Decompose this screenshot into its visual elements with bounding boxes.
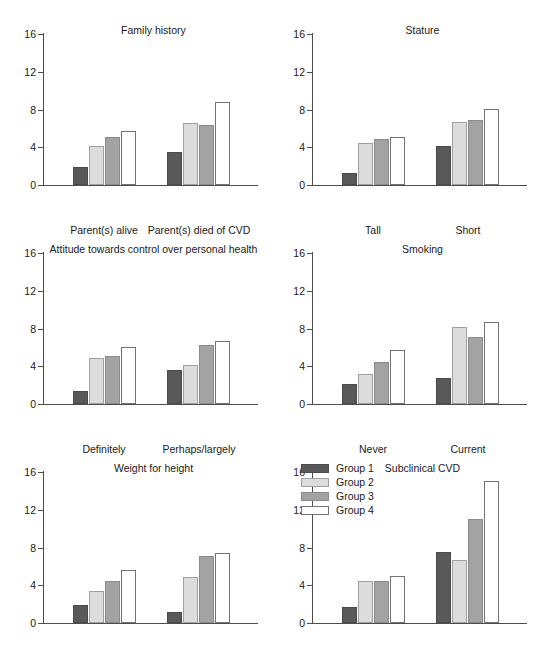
bar [215,341,230,404]
bar [89,591,104,623]
y-axis-tick [307,34,312,35]
y-axis-tick-label: 12 [269,505,305,515]
y-axis-tick-label: 4 [269,142,305,152]
y-axis-tick-label: 4 [269,361,305,371]
chart-panel: Weight for height0481216<24>27 [0,438,269,657]
bar [167,152,182,185]
y-axis-tick [38,366,43,367]
y-axis-tick-label: 4 [269,580,305,590]
x-axis-line [312,623,527,624]
legend-swatch-icon [301,478,329,487]
plot-area: NeverCurrent [313,253,527,404]
legend-swatch-icon [301,464,329,473]
plot-area: <24>27 [44,472,258,623]
bar [105,137,120,185]
bar [167,370,182,404]
y-axis-tick-label: 8 [0,324,36,334]
bar [199,556,214,623]
plot-area: TallShort [313,34,527,185]
bar [121,131,136,185]
y-axis-tick-label: 16 [0,29,36,39]
bar [89,146,104,185]
y-axis-tick-label: 16 [269,248,305,258]
bar [342,607,357,623]
y-axis-tick [38,253,43,254]
legend-item[interactable]: Group 1 [301,462,374,475]
bar [73,391,88,404]
bar [436,552,451,623]
y-axis-tick-label: 8 [269,105,305,115]
legend-item[interactable]: Group 3 [301,490,374,503]
chart-panel: Stature0481216TallShort [269,0,538,219]
legend-swatch-icon [301,506,329,515]
bar [484,481,499,623]
y-axis-tick-label: 0 [269,180,305,190]
bar [374,139,389,185]
y-axis-tick-label: 8 [269,543,305,553]
bar [374,581,389,623]
y-axis-tick-label: 0 [0,399,36,409]
bar [183,123,198,185]
bar [215,102,230,185]
bar [199,345,214,404]
y-axis-tick [38,623,43,624]
x-axis-line [43,185,258,186]
y-axis-tick-label: 16 [269,29,305,39]
bar [358,581,373,623]
y-axis-tick [307,72,312,73]
bar [358,143,373,185]
y-axis-tick [307,548,312,549]
bar [342,384,357,404]
bar [73,167,88,185]
y-axis-tick-label: 8 [0,105,36,115]
legend-item[interactable]: Group 2 [301,476,374,489]
bar [468,120,483,185]
y-axis-tick [38,404,43,405]
y-axis-tick [307,366,312,367]
y-axis-tick-label: 12 [0,505,36,515]
y-axis-tick [307,110,312,111]
chart-panel: Attitude towards control over personal h… [0,219,269,438]
y-axis-tick-label: 12 [269,67,305,77]
y-axis-tick [38,510,43,511]
y-axis-tick [307,623,312,624]
chart-panel: Smoking0481216NeverCurrent [269,219,538,438]
y-axis-tick-label: 12 [0,67,36,77]
legend-item-label: Group 2 [336,476,374,489]
y-axis-tick-label: 0 [0,180,36,190]
y-axis-tick-label: 12 [269,286,305,296]
x-axis-line [43,623,258,624]
y-axis-tick [38,185,43,186]
y-axis-tick [307,329,312,330]
y-axis-tick [307,585,312,586]
bar [468,519,483,623]
y-axis-tick [307,404,312,405]
bar [73,605,88,623]
y-axis-tick-label: 4 [0,361,36,371]
y-axis-tick-label: 8 [0,543,36,553]
legend-item-label: Group 3 [336,490,374,503]
figure-panel-grid: Family history0481216Parent(s) alivePare… [0,0,538,657]
bar [358,374,373,404]
bar [215,553,230,623]
y-axis-tick [307,147,312,148]
y-axis-tick-label: 0 [269,618,305,628]
chart-panel: Subclinical CVD0481216NoYesGroup 1Group … [269,438,538,657]
bar [89,358,104,404]
x-axis-line [43,404,258,405]
y-axis-tick [38,72,43,73]
y-axis-tick-label: 0 [269,399,305,409]
bar [390,350,405,404]
bar [199,125,214,185]
y-axis-tick [38,329,43,330]
bar [390,576,405,623]
legend-item[interactable]: Group 4 [301,504,374,517]
bar [121,347,136,404]
y-axis-tick [307,185,312,186]
y-axis-tick-label: 16 [269,467,305,477]
bar [183,365,198,404]
bar [484,322,499,404]
x-axis-line [312,404,527,405]
y-axis-tick [38,147,43,148]
bar [452,327,467,404]
